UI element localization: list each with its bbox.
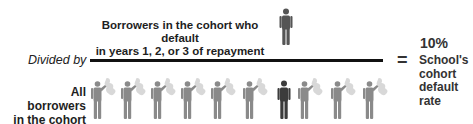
defaulting-person-icon [279,8,293,46]
waving-person-icon [298,76,326,120]
numerator-line-2: in years 1, 2, or 3 of repayment [85,45,275,58]
waving-person-icon [181,76,209,120]
waving-person-icon [363,76,391,120]
waving-person-icon [243,76,271,120]
waving-person-icon [91,76,119,120]
defaulting-person-icon [277,80,291,120]
denominator-label: All borrowers in the cohort [10,85,86,124]
waving-person-icon [151,76,179,120]
equals-sign: = [397,50,408,71]
fraction-bar [90,59,383,62]
waving-person-icon [121,76,149,120]
divided-by-label: Divided by [28,53,86,67]
default-rate-label: School's cohort default rate [419,54,469,108]
numerator-line-1: Borrowers in the cohort who default [85,19,275,45]
numerator-label: Borrowers in the cohort who default in y… [85,19,275,58]
default-rate-value: 10% [420,35,448,51]
waving-person-icon [211,76,239,120]
waving-person-icon [331,76,359,120]
